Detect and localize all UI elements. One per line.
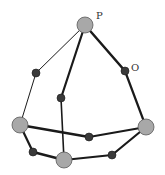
large-node-rl — [138, 119, 154, 135]
edge-o-rl — [125, 71, 146, 127]
graph-canvas: PO — [0, 0, 165, 175]
small-node-brs — [108, 151, 116, 159]
small-node-ms — [57, 94, 65, 102]
large-node-bl — [56, 152, 72, 168]
node-label-p: P — [96, 10, 103, 21]
small-node-ls — [32, 69, 40, 77]
edge-p-ms — [61, 25, 85, 98]
edge-ll-mb — [20, 125, 89, 137]
large-node-p — [77, 17, 93, 33]
graph-diagram: PO — [0, 0, 165, 175]
large-node-ll — [12, 117, 28, 133]
node-label-o: O — [131, 62, 139, 73]
small-node-mb — [85, 133, 93, 141]
small-node-bls — [29, 148, 37, 156]
edge-mb-rl — [89, 127, 146, 137]
small-node-o — [121, 67, 129, 75]
edge-ms-bl — [61, 98, 64, 160]
edge-p-o — [85, 25, 125, 71]
edge-layer — [20, 25, 146, 160]
